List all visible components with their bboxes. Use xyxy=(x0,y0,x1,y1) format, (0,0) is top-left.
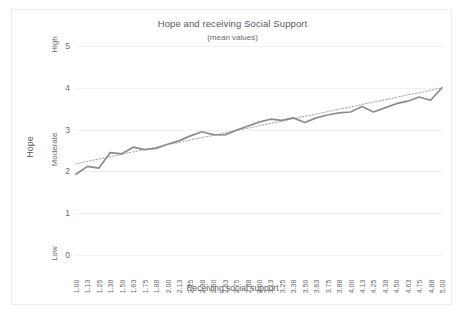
y-axis-title: Hope xyxy=(25,117,35,177)
hope-mean-series xyxy=(76,88,442,175)
series-layer xyxy=(75,46,443,255)
chart-subtitle: (mean values) xyxy=(12,33,453,42)
y-tick-label: 0 xyxy=(56,250,70,260)
y-tick-label: 1 xyxy=(56,208,70,218)
y-tick-label: 2 xyxy=(56,166,70,176)
trendline-series xyxy=(76,88,442,164)
x-axis-ticks: 1.001.131.251.381.501.631.751.882.002.13… xyxy=(75,256,443,282)
x-axis-title: Receiving social support xyxy=(12,283,453,293)
plot-area xyxy=(75,46,443,255)
y-tick-label: 3 xyxy=(56,125,70,135)
y-tick-label: 5 xyxy=(56,41,70,51)
chart-title: Hope and receiving Social Support xyxy=(12,18,453,29)
y-tick-label: 4 xyxy=(56,83,70,93)
chart-container: Hope and receiving Social Support (mean … xyxy=(11,9,452,305)
